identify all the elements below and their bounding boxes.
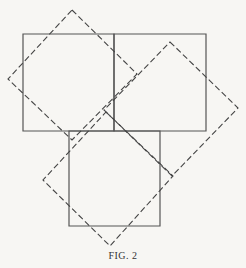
- top-left-square: [23, 34, 114, 131]
- figure-diagram: [0, 0, 246, 268]
- dashed-square-left: [8, 10, 137, 140]
- dashed-square-right: [104, 42, 238, 176]
- bottom-square: [69, 131, 160, 226]
- top-right-square: [114, 34, 206, 131]
- figure-caption: FIG. 2: [0, 250, 246, 261]
